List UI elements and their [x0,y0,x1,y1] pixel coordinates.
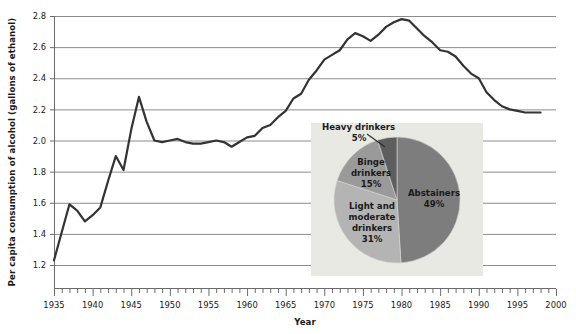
pie-label-binge-drinkers-line2: drinkers [351,168,391,178]
pie-label-light-moderate-line2: moderate [349,212,396,222]
pie-value-light-moderate: 31% [362,234,383,244]
pie-label-heavy-drinkers: Heavy drinkers [322,122,395,132]
chart-figure: 1.21.41.61.82.02.22.42.62.8 193519401945… [0,0,576,334]
y-axis-tick-label: 2.8 [33,11,46,21]
y-axis-tick-label: 2.4 [33,73,46,83]
y-axis-tick-label: 1.2 [33,260,46,270]
y-axis-tick-label: 1.8 [33,167,46,177]
y-axis-tick-label: 2.6 [33,42,46,52]
x-axis-tick-label: 2000 [545,300,566,310]
x-axis-tick-label: 1950 [159,300,180,310]
pie-label-binge-drinkers-line1: Binge [357,157,385,167]
x-axis-title: Year [293,317,316,327]
y-axis-tick-label: 1.6 [33,198,46,208]
x-axis-tick-label: 1975 [352,300,373,310]
y-axis-title: Per capita consumption of alcohol (gallo… [7,18,17,287]
x-axis-tick-label: 1965 [275,300,296,310]
x-axis-tick-label: 1940 [82,300,103,310]
pie-chart-inset: Heavy drinkers 5% Binge drinkers 15% Lig… [311,122,483,276]
x-axis-tick-label: 1990 [468,300,489,310]
x-axis-tick-label: 1960 [236,300,257,310]
x-axis-tick-label: 1935 [43,300,64,310]
y-axis-tick-label: 2.2 [33,105,46,115]
pie-label-light-moderate-line1: Light and [349,201,395,211]
pie-value-heavy-drinkers: 5% [352,133,367,143]
alcohol-consumption-chart: 1.21.41.61.82.02.22.42.62.8 193519401945… [0,0,576,334]
y-axis-tick-label: 1.4 [33,229,46,239]
x-axis-tick-label: 1985 [429,300,450,310]
x-axis-tick-label: 1980 [391,300,412,310]
x-axis-tick-label: 1945 [121,300,142,310]
pie-label-light-moderate-line3: drinkers [352,223,392,233]
x-axis-tick-label: 1970 [314,300,335,310]
y-axis-tick-label: 2.0 [33,136,46,146]
x-axis-tick-label: 1955 [198,300,219,310]
pie-label-abstainers: Abstainers [408,188,460,198]
y-axis-tick-labels: 1.21.41.61.82.02.22.42.62.8 [33,11,46,270]
pie-value-binge-drinkers: 15% [361,179,382,189]
x-axis-tick-label: 1995 [507,300,528,310]
pie-value-abstainers: 49% [424,199,445,209]
chart-background [0,0,576,334]
